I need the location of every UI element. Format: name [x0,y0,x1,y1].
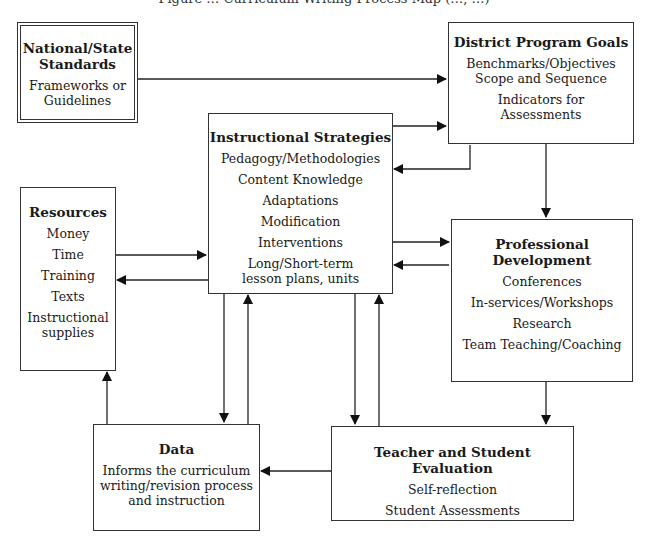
node-heading: National/State [23,40,133,56]
node-heading: Professional Development [452,236,632,268]
node-teacher-student-evaluation: Teacher and Student Evaluation Self-refl… [331,426,574,521]
node-item: and instruction [128,493,225,508]
node-item: writing/revision process [100,478,253,493]
node-item: Team Teaching/Coaching [462,337,621,352]
node-resources: Resources Money Time Training Texts Inst… [20,187,116,371]
node-item: Student Assessments [385,503,520,518]
node-item: Informs the curriculum [103,463,251,478]
node-item: Assessments [501,107,582,122]
node-item: In-services/Workshops [471,295,614,310]
node-national-state-standards: National/State Standards Frameworks or G… [17,22,138,123]
node-item: Self-reflection [408,482,497,497]
node-instructional-strategies: Instructional Strategies Pedagogy/Method… [208,113,393,294]
node-item: Research [512,316,571,331]
node-item: Instructional [27,310,109,325]
node-item: Guidelines [44,93,111,108]
node-item: Time [52,247,84,262]
node-item: Texts [51,289,84,304]
node-item: Pedagogy/Methodologies [221,151,380,166]
node-item: Modification [261,214,341,229]
node-item: Content Knowledge [238,172,363,187]
node-item: supplies [42,325,94,340]
node-item: Money [47,226,90,241]
node-item: Long/Short-term [248,256,354,271]
node-item: Conferences [502,274,581,289]
node-item: Frameworks or [29,78,126,93]
node-professional-development: Professional Development Conferences In-… [451,219,633,382]
node-item: Training [41,268,95,283]
node-heading: Teacher and Student Evaluation [332,444,573,476]
node-item: lesson plans, units [242,271,359,286]
node-heading: Standards [39,56,116,72]
node-item: Scope and Sequence [475,71,607,86]
node-heading: Data [159,441,194,457]
node-item: Benchmarks/Objectives [466,56,616,71]
node-item: Interventions [258,235,343,250]
node-data: Data Informs the curriculum writing/revi… [93,424,260,531]
node-heading: Instructional Strategies [210,129,391,145]
node-heading: Resources [29,204,107,220]
node-district-program-goals: District Program Goals Benchmarks/Object… [448,22,634,144]
arrow-district-to-instructional [394,145,470,169]
node-heading: District Program Goals [454,34,629,50]
node-item: Adaptations [263,193,339,208]
node-item: Indicators for [498,92,584,107]
